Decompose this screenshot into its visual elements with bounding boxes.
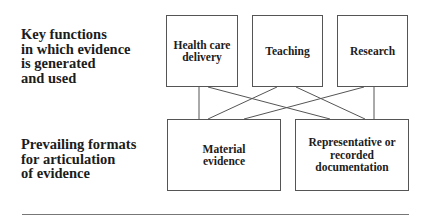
format-box-recorded-documentation: Representative or recorded documentation [295,119,409,191]
function-box-teaching: Teaching [252,15,323,87]
function-label: Research [350,45,395,58]
key-functions-row-label: Key functions in which evidence is gener… [21,27,131,85]
prevailing-formats-row-label: Prevailing formats for articulation of e… [21,137,136,181]
format-box-material-evidence: Material evidence [167,119,281,191]
connector-teaching-material [208,87,277,119]
connector-teaching-document [296,87,365,119]
connector-research-material [244,87,364,119]
format-label: Material evidence [203,143,246,168]
format-label: Representative or recorded documentation [309,136,396,174]
function-box-health-care-delivery: Health care delivery [166,15,238,87]
function-box-research: Research [337,15,408,87]
bottom-divider [22,214,409,215]
function-label: Teaching [265,45,309,58]
connector-health-document [208,87,330,119]
function-label: Health care delivery [174,39,231,64]
